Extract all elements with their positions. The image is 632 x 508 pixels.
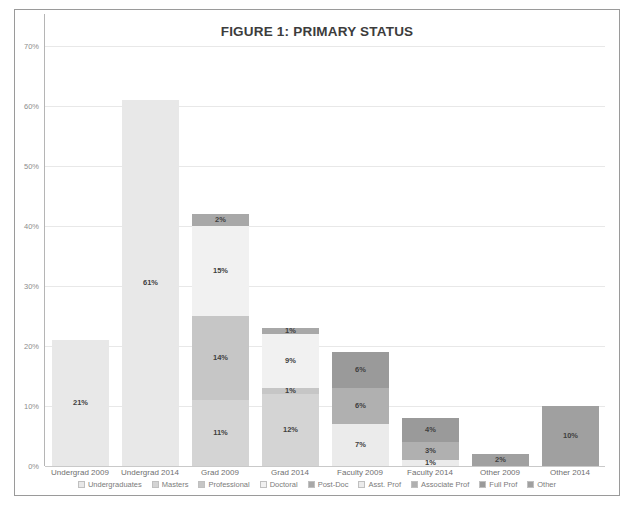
legend-label: Asst. Prof bbox=[368, 480, 401, 489]
bar-group[interactable]: 11%14%15%2% bbox=[192, 214, 249, 466]
page-title: FIGURE 1: PRIMARY STATUS bbox=[15, 24, 619, 39]
bar-segment-value-label: 6% bbox=[355, 402, 366, 410]
bar-segment[interactable]: 2% bbox=[192, 214, 249, 226]
y-axis-tick-label: 0% bbox=[28, 462, 39, 471]
bar-segment-value-label: 1% bbox=[425, 459, 436, 467]
bar-segment[interactable]: 21% bbox=[52, 340, 109, 466]
y-axis-tick-label: 10% bbox=[24, 402, 39, 411]
bar-group[interactable]: 1%3%4% bbox=[402, 418, 459, 466]
bar-group[interactable]: 7%6%6% bbox=[332, 352, 389, 466]
legend-item[interactable]: Undergraduates bbox=[78, 480, 142, 489]
bar-segment[interactable]: 6% bbox=[332, 388, 389, 424]
x-axis-category-label: Undergrad 2014 bbox=[115, 468, 185, 477]
x-axis-category-label: Grad 2009 bbox=[185, 468, 255, 477]
y-axis-tick-label: 60% bbox=[24, 102, 39, 111]
legend-swatch-icon bbox=[411, 481, 418, 488]
y-axis-tick-label: 70% bbox=[24, 42, 39, 51]
bar-segment[interactable]: 2% bbox=[472, 454, 529, 466]
bar-group[interactable]: 12%1%9%1% bbox=[262, 328, 319, 466]
legend-item[interactable]: Doctoral bbox=[260, 480, 298, 489]
bar-segment[interactable]: 1% bbox=[402, 460, 459, 466]
bar-segment-value-label: 12% bbox=[283, 426, 298, 434]
legend-item[interactable]: Other bbox=[527, 480, 556, 489]
x-axis-category-label: Undergrad 2009 bbox=[45, 468, 115, 477]
bar-segment-value-label: 11% bbox=[213, 429, 228, 437]
chart-legend: UndergraduatesMastersProfessionalDoctora… bbox=[15, 480, 619, 489]
bar-segment[interactable]: 1% bbox=[262, 328, 319, 334]
legend-label: Masters bbox=[162, 480, 189, 489]
legend-swatch-icon bbox=[358, 481, 365, 488]
bar-segment[interactable]: 1% bbox=[262, 388, 319, 394]
legend-label: Undergraduates bbox=[88, 480, 142, 489]
legend-item[interactable]: Asst. Prof bbox=[358, 480, 401, 489]
y-axis-tick-label: 30% bbox=[24, 282, 39, 291]
gridline: 0% bbox=[45, 466, 605, 467]
legend-swatch-icon bbox=[198, 481, 205, 488]
legend-label: Other bbox=[537, 480, 556, 489]
bar-segment-value-label: 1% bbox=[285, 387, 296, 395]
x-axis-category-label: Other 2014 bbox=[535, 468, 605, 477]
x-axis-category-label: Grad 2014 bbox=[255, 468, 325, 477]
bar-segment-value-label: 10% bbox=[563, 432, 578, 440]
bar-segment-value-label: 15% bbox=[213, 267, 228, 275]
legend-item[interactable]: Full Prof bbox=[479, 480, 517, 489]
y-axis-tick-label: 20% bbox=[24, 342, 39, 351]
bar-segment-value-label: 2% bbox=[215, 216, 226, 224]
bar-segment-value-label: 21% bbox=[73, 399, 88, 407]
bar-group[interactable]: 10% bbox=[542, 406, 599, 466]
legend-swatch-icon bbox=[308, 481, 315, 488]
figure-frame: FIGURE 1: PRIMARY STATUS 0%10%20%30%40%5… bbox=[14, 9, 620, 496]
bar-segment-value-label: 6% bbox=[355, 366, 366, 374]
legend-swatch-icon bbox=[78, 481, 85, 488]
legend-label: Full Prof bbox=[489, 480, 517, 489]
bar-segment[interactable]: 4% bbox=[402, 418, 459, 442]
legend-swatch-icon bbox=[479, 481, 486, 488]
y-axis-tick-label: 50% bbox=[24, 162, 39, 171]
legend-item[interactable]: Post-Doc bbox=[308, 480, 349, 489]
legend-item[interactable]: Masters bbox=[152, 480, 189, 489]
bar-segment[interactable]: 12% bbox=[262, 394, 319, 466]
bar-segment-value-label: 14% bbox=[213, 354, 228, 362]
bar-group[interactable]: 21% bbox=[52, 340, 109, 466]
bar-segment[interactable]: 11% bbox=[192, 400, 249, 466]
legend-item[interactable]: Professional bbox=[198, 480, 249, 489]
bar-segment[interactable]: 3% bbox=[402, 442, 459, 460]
bar-segment-value-label: 1% bbox=[285, 327, 296, 335]
x-axis-category-label: Other 2009 bbox=[465, 468, 535, 477]
bar-segment-value-label: 9% bbox=[285, 357, 296, 365]
legend-label: Doctoral bbox=[270, 480, 298, 489]
bar-segment[interactable]: 6% bbox=[332, 352, 389, 388]
bar-segment-value-label: 61% bbox=[143, 279, 158, 287]
legend-label: Associate Prof bbox=[421, 480, 469, 489]
x-axis-category-label: Faculty 2014 bbox=[395, 468, 465, 477]
legend-swatch-icon bbox=[152, 481, 159, 488]
x-axis-category-label: Faculty 2009 bbox=[325, 468, 395, 477]
bar-group[interactable]: 61% bbox=[122, 100, 179, 466]
bar-segment[interactable]: 14% bbox=[192, 316, 249, 400]
legend-label: Professional bbox=[208, 480, 249, 489]
legend-swatch-icon bbox=[527, 481, 534, 488]
legend-swatch-icon bbox=[260, 481, 267, 488]
legend-label: Post-Doc bbox=[318, 480, 349, 489]
y-axis-tick-label: 40% bbox=[24, 222, 39, 231]
bar-segment[interactable]: 15% bbox=[192, 226, 249, 316]
bar-group[interactable]: 2% bbox=[472, 454, 529, 466]
legend-item[interactable]: Associate Prof bbox=[411, 480, 469, 489]
bar-segment[interactable]: 9% bbox=[262, 334, 319, 388]
plot-area: 0%10%20%30%40%50%60%70% 21%61%11%14%15%2… bbox=[45, 46, 605, 466]
bar-segment[interactable]: 61% bbox=[122, 100, 179, 466]
bar-segment-value-label: 7% bbox=[355, 441, 366, 449]
bar-segment[interactable]: 7% bbox=[332, 424, 389, 466]
bar-segment-value-label: 4% bbox=[425, 426, 436, 434]
bar-segment[interactable]: 10% bbox=[542, 406, 599, 466]
bar-segment-value-label: 3% bbox=[425, 447, 436, 455]
bar-segment-value-label: 2% bbox=[495, 456, 506, 464]
bars-layer: 21%61%11%14%15%2%12%1%9%1%7%6%6%1%3%4%2%… bbox=[45, 46, 605, 466]
